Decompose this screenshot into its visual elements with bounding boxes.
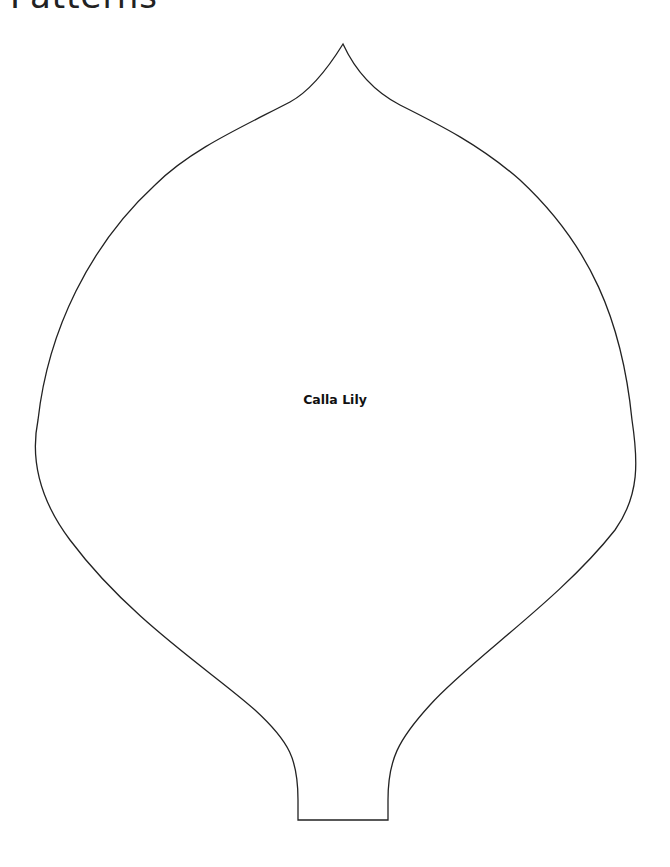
petal-outline (0, 0, 670, 867)
pattern-label: Calla Lily (0, 392, 670, 407)
